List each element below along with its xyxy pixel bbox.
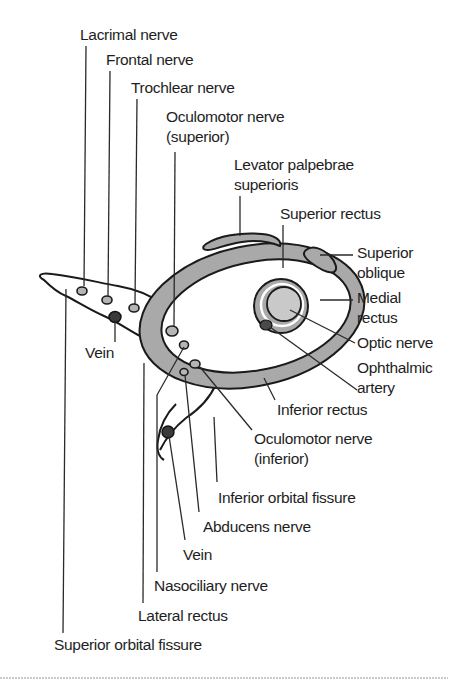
ophthalmic-artery bbox=[260, 320, 272, 330]
label-superior-oblique-line1: Superior bbox=[357, 244, 413, 261]
label-inferior-orbital-fissure: Inferior orbital fissure bbox=[218, 489, 356, 506]
label-abducens-nerve: Abducens nerve bbox=[203, 518, 311, 535]
frontal-nerve-dot bbox=[102, 296, 112, 304]
label-ophthalmic-artery-line1: Ophthalmic bbox=[357, 359, 433, 376]
label-levator-line1: Levator palpebrae bbox=[234, 156, 354, 173]
label-vein-lower: Vein bbox=[183, 546, 212, 563]
label-inferior-rectus: Inferior rectus bbox=[277, 401, 368, 418]
orbital-apex-diagram: Lacrimal nerve Frontal nerve Trochlear n… bbox=[0, 0, 462, 692]
label-lateral-rectus: Lateral rectus bbox=[138, 607, 228, 624]
label-ophthalmic-artery-line2: artery bbox=[357, 379, 395, 396]
lacrimal-nerve-dot bbox=[77, 287, 87, 295]
label-superior-orbital-fissure: Superior orbital fissure bbox=[54, 636, 202, 653]
label-medial-rectus-line1: Medial bbox=[357, 289, 401, 306]
label-nasociliary-nerve: Nasociliary nerve bbox=[154, 577, 268, 594]
label-oculomotor-superior-line2: (superior) bbox=[166, 128, 229, 145]
label-oculomotor-inferior-line2: (inferior) bbox=[254, 450, 309, 467]
label-oculomotor-inferior-line1: Oculomotor nerve bbox=[254, 430, 372, 447]
label-lacrimal-nerve: Lacrimal nerve bbox=[80, 26, 177, 43]
abducens-nerve-dot bbox=[180, 369, 188, 376]
vein-lower-dot bbox=[162, 426, 174, 438]
label-superior-oblique-line2: oblique bbox=[357, 264, 405, 281]
label-trochlear-nerve: Trochlear nerve bbox=[131, 79, 234, 96]
trochlear-nerve-dot bbox=[129, 304, 139, 312]
label-superior-rectus: Superior rectus bbox=[280, 205, 381, 222]
label-vein-upper: Vein bbox=[85, 344, 114, 361]
oculomotor-inferior-dot bbox=[190, 360, 200, 368]
label-levator-line2: superioris bbox=[234, 176, 299, 193]
optic-nerve bbox=[267, 287, 301, 321]
label-oculomotor-superior-line1: Oculomotor nerve bbox=[166, 108, 284, 125]
label-optic-nerve: Optic nerve bbox=[357, 334, 433, 351]
label-frontal-nerve: Frontal nerve bbox=[106, 51, 193, 68]
oculomotor-superior-dot bbox=[166, 326, 178, 336]
label-medial-rectus-line2: rectus bbox=[357, 309, 398, 326]
